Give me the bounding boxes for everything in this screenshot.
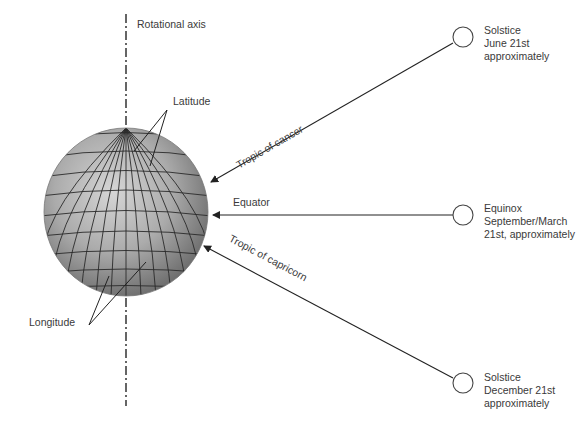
sun-position-june-icon <box>453 27 473 47</box>
june-solstice-label: Solstice June 21st approximately <box>484 24 549 63</box>
december-solstice-label: Solstice December 21st approximately <box>484 371 555 410</box>
equinox-note: 21st, approximately <box>484 228 575 241</box>
june-solstice-date: June 21st <box>484 37 549 50</box>
december-solstice-note: approximately <box>484 397 555 410</box>
sun-position-equinox-icon <box>453 205 473 225</box>
june-solstice-event: Solstice <box>484 24 549 37</box>
earth-sun-diagram: Rotational axis Latitude Longitude Tropi… <box>0 0 584 428</box>
december-solstice-event: Solstice <box>484 371 555 384</box>
longitude-label: Longitude <box>29 316 75 329</box>
equinox-event: Equinox <box>484 202 575 215</box>
equinox-label: Equinox September/March 21st, approximat… <box>484 202 575 241</box>
rotational-axis-label: Rotational axis <box>137 18 206 31</box>
globe <box>40 128 212 296</box>
sun-position-december-icon <box>453 373 473 393</box>
equator-label: Equator <box>233 196 270 209</box>
june-solstice-note: approximately <box>484 50 549 63</box>
tropic-of-capricorn-arrow <box>204 246 453 378</box>
latitude-label: Latitude <box>173 95 210 108</box>
equinox-date: September/March <box>484 215 575 228</box>
december-solstice-date: December 21st <box>484 384 555 397</box>
